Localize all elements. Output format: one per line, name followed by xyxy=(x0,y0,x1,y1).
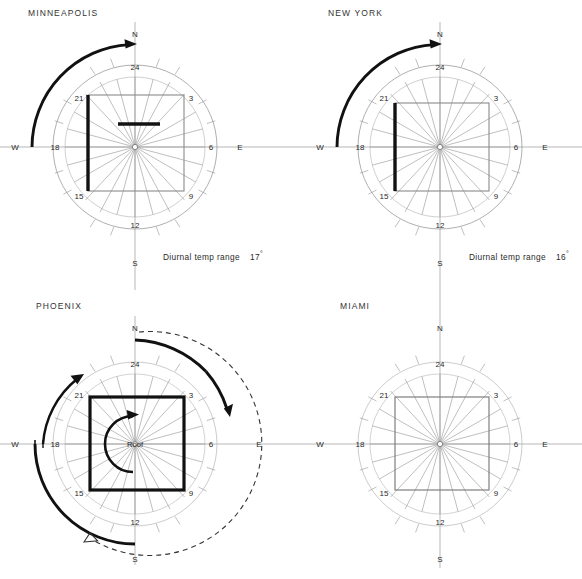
hour-label-9: 9 xyxy=(494,489,499,498)
compass-label-east: E xyxy=(256,440,261,449)
diagram-grid: MINNEAPOLIS xyxy=(0,0,582,579)
hour-label-18: 18 xyxy=(51,440,60,449)
hour-label-21: 21 xyxy=(380,391,389,400)
compass-label-north: N xyxy=(132,324,138,333)
hour-label-3: 3 xyxy=(494,94,499,103)
compass-label-west: W xyxy=(11,143,19,152)
hour-label-18: 18 xyxy=(356,143,365,152)
compass-label-east: E xyxy=(542,143,547,152)
caption-new-york: Diurnal temp range16° xyxy=(469,250,569,262)
compass-label-north: N xyxy=(437,324,443,333)
hour-label-12: 12 xyxy=(131,518,140,527)
compass-label-south: S xyxy=(437,555,442,564)
caption-degree: ° xyxy=(566,250,569,257)
hour-label-6: 6 xyxy=(209,143,214,152)
panel-new-york: NEW YORK xyxy=(291,0,582,290)
hour-label-15: 15 xyxy=(380,192,389,201)
roof-label: Roof xyxy=(127,440,144,449)
caption-value: 17 xyxy=(250,252,260,262)
thermal-lag-arc xyxy=(32,39,137,147)
arrow-head-roof xyxy=(127,410,139,420)
sun-dial-new-york: 24 3 6 9 12 15 18 21 N S E W xyxy=(291,0,582,290)
thermal-lag-arc xyxy=(337,39,442,147)
caption-minneapolis: Diurnal temp range17° xyxy=(163,250,263,262)
panel-phoenix: PHOENIX xyxy=(0,290,291,579)
sun-dial-phoenix: Roof 24 xyxy=(0,290,291,579)
sun-dial-miami: 24 3 6 9 12 15 18 21 N S E W xyxy=(291,290,582,579)
hour-label-3: 3 xyxy=(189,391,194,400)
compass-label-south: S xyxy=(132,555,137,564)
hour-label-18: 18 xyxy=(51,143,60,152)
night-ventilation-dashed-arc xyxy=(93,331,262,555)
hour-label-12: 12 xyxy=(436,221,445,230)
hour-label-21: 21 xyxy=(380,94,389,103)
compass-label-east: E xyxy=(542,440,547,449)
hour-label-18: 18 xyxy=(356,440,365,449)
compass-label-west: W xyxy=(316,143,324,152)
hour-label-24: 24 xyxy=(131,63,140,72)
compass-label-west: W xyxy=(11,440,19,449)
dial-hub xyxy=(437,144,442,149)
compass-label-north: N xyxy=(437,30,443,39)
sun-dial-minneapolis: 24 3 6 9 12 15 18 21 N S E W xyxy=(0,0,291,290)
dial-hub xyxy=(132,144,137,149)
hour-label-15: 15 xyxy=(75,192,84,201)
hour-label-15: 15 xyxy=(75,489,84,498)
caption-value: 16 xyxy=(556,252,566,262)
hour-label-24: 24 xyxy=(436,360,445,369)
hour-label-6: 6 xyxy=(514,143,519,152)
hour-label-6: 6 xyxy=(514,440,519,449)
compass-label-south: S xyxy=(437,259,442,268)
hour-label-21: 21 xyxy=(75,391,84,400)
wall-sweep-arc xyxy=(35,440,135,544)
compass-label-south: S xyxy=(132,259,137,268)
caption-degree: ° xyxy=(260,250,263,257)
hour-label-24: 24 xyxy=(131,360,140,369)
hour-label-3: 3 xyxy=(494,391,499,400)
panel-minneapolis: MINNEAPOLIS xyxy=(0,0,291,290)
hour-label-9: 9 xyxy=(494,192,499,201)
hour-label-9: 9 xyxy=(189,192,194,201)
hour-label-12: 12 xyxy=(436,518,445,527)
hour-label-6: 6 xyxy=(209,440,214,449)
compass-label-west: W xyxy=(316,440,324,449)
hour-label-9: 9 xyxy=(189,489,194,498)
hour-label-15: 15 xyxy=(380,489,389,498)
compass-label-north: N xyxy=(132,30,138,39)
hour-label-24: 24 xyxy=(436,63,445,72)
panel-miami: MIAMI xyxy=(291,290,582,579)
hour-label-21: 21 xyxy=(75,94,84,103)
hour-label-3: 3 xyxy=(189,94,194,103)
dial-hub xyxy=(437,441,442,446)
compass-label-east: E xyxy=(237,143,242,152)
caption-label: Diurnal temp range xyxy=(163,252,240,262)
hour-label-12: 12 xyxy=(131,221,140,230)
caption-label: Diurnal temp range xyxy=(469,252,546,262)
